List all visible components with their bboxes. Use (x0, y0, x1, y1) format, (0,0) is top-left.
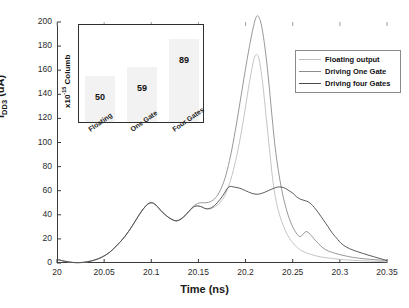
y-tick-label: 140 (4, 89, 52, 98)
y-tick-label: 40 (4, 210, 52, 219)
y-axis-title-main: I (0, 115, 6, 118)
inset-y-axis-title: x10-15 Columb (61, 55, 72, 108)
x-tick-label: 20.25 (282, 267, 303, 277)
legend-item[interactable]: Floating output (296, 54, 400, 65)
y-tick-label: 120 (4, 113, 52, 122)
x-tick-label: 20.35 (376, 267, 397, 277)
x-tick-label: 20.3 (332, 267, 349, 277)
inset-y-title-main: x10 (63, 95, 72, 108)
inset-bar-value: 59 (137, 83, 147, 93)
y-tick-label: 100 (4, 138, 52, 147)
x-axis-title: Time (ns) (0, 283, 409, 295)
x-tick-label: 20 (52, 267, 61, 277)
y-tick-label: 0 (4, 258, 52, 267)
x-tick-label: 20.1 (143, 267, 160, 277)
x-tick-label: 20.05 (94, 267, 115, 277)
y-axis-title-unit: (uA) (0, 75, 6, 100)
y-axis-tick-labels: 020406080100120140160180200 (0, 0, 52, 308)
inset-y-title-exponent: -15 (61, 87, 67, 95)
y-axis-title-sub: DD3 (0, 100, 9, 115)
legend-line-swatch (299, 71, 321, 72)
legend-line-swatch (299, 83, 321, 84)
legend-item[interactable]: Driving four Gates (296, 78, 400, 89)
inset-y-title-rest: Columb (63, 55, 72, 87)
legend-box: Floating outputDriving One GateDriving f… (295, 50, 401, 93)
inset-bar-value: 89 (179, 55, 189, 65)
y-tick-label: 80 (4, 162, 52, 171)
x-tick-label: 20.2 (237, 267, 254, 277)
legend-label: Floating output (325, 55, 380, 64)
y-tick-label: 60 (4, 186, 52, 195)
y-tick-label: 200 (4, 17, 52, 26)
x-axis-tick-labels: 2020.0520.120.1520.220.2520.320.35 (0, 267, 409, 281)
legend-label: Driving four Gates (325, 79, 390, 88)
series-line (57, 186, 387, 262)
y-tick-label: 20 (4, 234, 52, 243)
legend-line-swatch (299, 59, 321, 60)
legend-label: Driving One Gate (325, 67, 386, 76)
x-tick-label: 20.15 (188, 267, 209, 277)
inset-bar-value: 50 (95, 92, 105, 102)
figure-canvas: 020406080100120140160180200 IDD3 (uA) 20… (0, 0, 409, 308)
y-axis-title: IDD3 (uA) (0, 75, 9, 118)
legend-item[interactable]: Driving One Gate (296, 66, 400, 77)
y-tick-label: 160 (4, 65, 52, 74)
inset-bar-chart: 505989 (78, 24, 204, 123)
y-tick-label: 180 (4, 41, 52, 50)
